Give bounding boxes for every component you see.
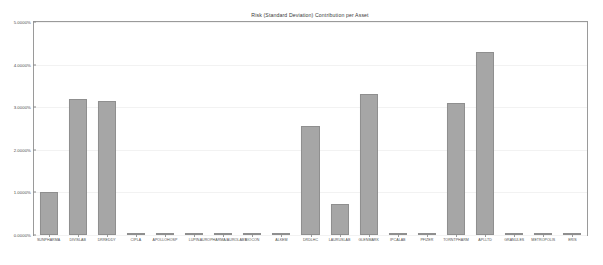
bar-slot <box>383 22 412 235</box>
bar-slot <box>34 22 63 235</box>
bar-slot <box>529 22 558 235</box>
x-axis-tick-label: DRREDDY <box>98 238 116 242</box>
x-axis-tick-label: TORNTPHARM <box>443 238 469 242</box>
x-axis-tick-label: ALKEM <box>275 238 287 242</box>
x-axis-tick-label: SUNPHARMA <box>37 238 60 242</box>
bar-slot <box>267 22 296 235</box>
x-axis-tick-label: CIPLA <box>131 238 142 242</box>
x-tick-mark <box>165 235 166 237</box>
scan-artifact-band <box>0 0 603 12</box>
x-tick-mark <box>514 235 515 237</box>
risk-contribution-chart: Risk (Standard Deviation) Contribution p… <box>0 0 603 265</box>
y-axis-labels: 5.0000%4.0000%3.0000%2.0000%1.0000%0.000… <box>0 22 31 235</box>
x-tick-mark <box>456 235 457 237</box>
bar <box>40 192 58 235</box>
x-tick-mark <box>194 235 195 237</box>
bar <box>301 126 319 235</box>
chart-title: Risk (Standard Deviation) Contribution p… <box>30 12 590 18</box>
x-tick-mark <box>543 235 544 237</box>
x-axis-tick-label: APOLLOHOSP <box>152 238 177 242</box>
x-axis-tick-label: GLENMARK <box>358 238 379 242</box>
bar <box>331 204 349 235</box>
x-axis-tick-label: APLLTD <box>478 238 492 242</box>
bar-slot <box>471 22 500 235</box>
x-axis-tick-label: GRANULES <box>504 238 524 242</box>
x-axis-tick-label: DIVISLAB <box>69 238 86 242</box>
bar-slot <box>558 22 587 235</box>
x-axis-tick-label: BIOCON <box>245 238 259 242</box>
bar <box>360 94 378 235</box>
x-tick-mark <box>369 235 370 237</box>
x-axis-tick-label: PFIZER <box>420 238 433 242</box>
x-tick-mark <box>572 235 573 237</box>
bar-slot <box>500 22 529 235</box>
bar-slot <box>63 22 92 235</box>
bar <box>447 103 465 235</box>
bar-slot <box>296 22 325 235</box>
bar-series <box>34 22 587 235</box>
bar <box>98 101 116 235</box>
y-axis-tick-label: 2.0000% <box>1 147 31 152</box>
bar-slot <box>354 22 383 235</box>
x-axis-tick-label: METROPOLIS <box>531 238 555 242</box>
x-axis-tick-label: AUROPHARMA/AUROLABS <box>200 238 247 242</box>
x-axis-tick-label: IPCALAB <box>390 238 405 242</box>
bar-slot <box>92 22 121 235</box>
bar <box>69 99 87 235</box>
bar-slot <box>325 22 354 235</box>
x-axis-tick-label: LAURUSLAB <box>329 238 351 242</box>
bar-slot <box>209 22 238 235</box>
x-tick-mark <box>398 235 399 237</box>
bar-slot <box>121 22 150 235</box>
x-tick-mark <box>107 235 108 237</box>
x-tick-mark <box>223 235 224 237</box>
x-axis-tick-label: DRDLHC <box>303 238 318 242</box>
y-axis-tick-label: 0.0000% <box>1 233 31 238</box>
x-tick-mark <box>252 235 253 237</box>
x-axis-labels: SUNPHARMADIVISLABDRREDDYCIPLAAPOLLOHOSPL… <box>34 238 587 252</box>
x-tick-mark <box>49 235 50 237</box>
y-axis-tick-label: 4.0000% <box>1 62 31 67</box>
x-tick-mark <box>136 235 137 237</box>
y-axis-tick-label: 1.0000% <box>1 190 31 195</box>
x-tick-mark <box>78 235 79 237</box>
x-tick-mark <box>311 235 312 237</box>
bar <box>476 52 494 235</box>
bar-slot <box>238 22 267 235</box>
x-axis-tick-label: LUPIN <box>189 238 200 242</box>
x-tick-mark <box>485 235 486 237</box>
y-axis-tick-label: 3.0000% <box>1 105 31 110</box>
x-tick-mark <box>427 235 428 237</box>
bar-slot <box>150 22 179 235</box>
x-tick-mark <box>340 235 341 237</box>
y-axis-tick-label: 5.0000% <box>1 20 31 25</box>
bar-slot <box>441 22 470 235</box>
x-axis-tick-label: ERIS <box>568 238 577 242</box>
bar-slot <box>412 22 441 235</box>
bar-slot <box>180 22 209 235</box>
x-tick-mark <box>281 235 282 237</box>
